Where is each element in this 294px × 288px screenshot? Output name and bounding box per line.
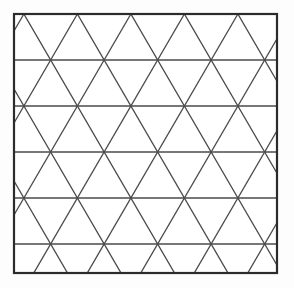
- lattice-inner-background: [14, 14, 277, 273]
- lattice-svg-canvas: [0, 0, 294, 288]
- triangular-lattice-figure: [0, 0, 294, 288]
- page-root: [0, 0, 294, 288]
